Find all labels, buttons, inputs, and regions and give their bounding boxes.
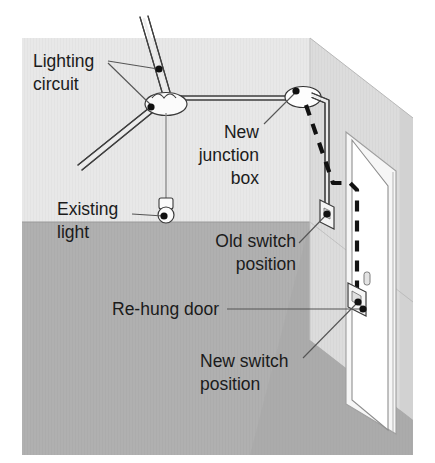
- label-lighting-circuit-line1: Lighting: [33, 51, 94, 71]
- dot-lighting-circuit-upper: [155, 65, 162, 72]
- dot-old-switch: [323, 210, 330, 217]
- label-existing-light-line2: light: [57, 222, 89, 242]
- label-lighting-circuit-line2: circuit: [33, 74, 79, 94]
- wiring-diagram-svg: Lighting circuit New junction box Existi…: [0, 0, 435, 463]
- label-new-junction-box-line1: New: [224, 122, 259, 142]
- dot-new-switch: [354, 298, 361, 305]
- dot-existing-light: [160, 212, 167, 219]
- label-new-junction-box-line3: box: [231, 168, 259, 188]
- door-group: [346, 132, 396, 434]
- label-old-switch-line1: Old switch: [215, 231, 296, 251]
- label-existing-light-line1: Existing: [57, 199, 118, 219]
- diagram-canvas: Lighting circuit New junction box Existi…: [0, 0, 435, 463]
- label-old-switch-line2: position: [236, 254, 296, 274]
- label-new-junction-box-line2: junction: [198, 145, 259, 165]
- side-wall-outer-reveal: [400, 108, 413, 455]
- door-handle: [364, 272, 370, 285]
- label-new-switch-line2: position: [200, 374, 260, 394]
- dot-lighting-circuit-lower: [147, 103, 154, 110]
- label-new-switch-line1: New switch: [200, 351, 289, 371]
- label-rehung-door: Re-hung door: [112, 299, 219, 319]
- dot-new-junction-box: [292, 87, 299, 94]
- dot-rehung-door: [359, 305, 366, 312]
